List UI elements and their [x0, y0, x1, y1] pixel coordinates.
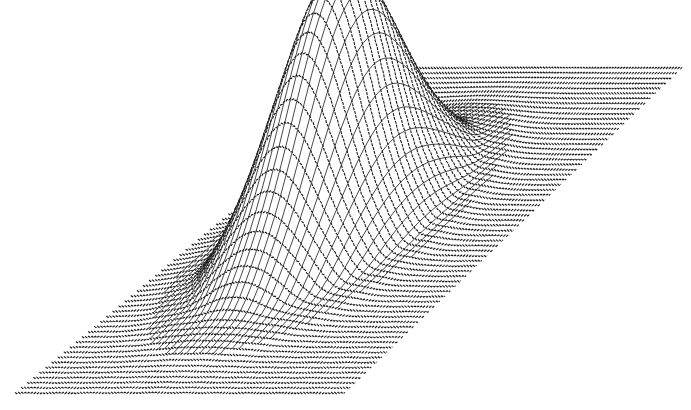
wireframe-surface	[0, 0, 691, 410]
surface-plot	[0, 0, 691, 410]
